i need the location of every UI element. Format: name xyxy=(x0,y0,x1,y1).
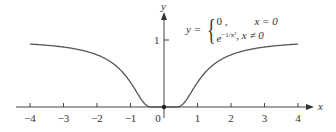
formula-lhs: y = xyxy=(186,23,201,35)
x-tick-label: 3 xyxy=(262,112,268,124)
y-tick-label: 1 xyxy=(154,34,160,46)
x-tick-label: −3 xyxy=(58,112,70,124)
x-tick-label: 4 xyxy=(295,112,301,124)
x-tick-label: 0 xyxy=(155,112,161,124)
x-axis-label: x xyxy=(317,100,323,112)
function-definition: y = { 0 , x = 0 e−1/x² , x ≠ 0 xyxy=(186,14,278,45)
x-tick-label: 2 xyxy=(228,112,234,124)
chart: xy1 −4−3−2−101234 xyxy=(0,0,336,132)
case-nonzero: e−1/x² , x ≠ 0 xyxy=(216,28,277,45)
formula-cases: 0 , x = 0 e−1/x² , x ≠ 0 xyxy=(216,14,277,45)
case-zero: 0 , x = 0 xyxy=(216,14,277,28)
x-axis-arrow-icon xyxy=(306,104,314,110)
x-tick-label: −4 xyxy=(24,112,36,124)
origin-point xyxy=(162,105,166,109)
x-tick-label: −1 xyxy=(125,112,137,124)
y-axis-arrow-icon xyxy=(161,12,167,20)
brace: { xyxy=(207,14,216,44)
x-tick-label: 1 xyxy=(195,112,201,124)
y-axis-label: y xyxy=(160,0,166,12)
x-tick-label: −2 xyxy=(91,112,103,124)
